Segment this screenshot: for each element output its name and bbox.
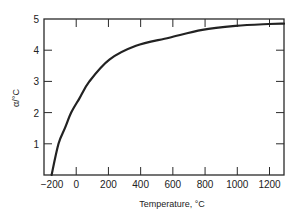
y-tick-label: 2: [33, 108, 39, 119]
series-line: [52, 24, 284, 175]
y-axis-ticks: 12345: [33, 14, 284, 150]
y-tick-label: 5: [33, 14, 39, 25]
x-tick-label: 1000: [226, 179, 249, 190]
x-tick-label: 600: [165, 179, 182, 190]
x-tick-label: 800: [197, 179, 214, 190]
x-axis-label: Temperature, °C: [139, 199, 205, 209]
y-axis-label: α/°C: [11, 89, 21, 107]
data-series: [52, 24, 284, 175]
y-tick-label: 1: [33, 139, 39, 150]
x-tick-label: 200: [100, 179, 117, 190]
x-tick-label: −200: [41, 179, 64, 190]
x-tick-label: 400: [132, 179, 149, 190]
y-tick-label: 4: [33, 45, 39, 56]
line-chart: −200020040060080010001200 12345 Temperat…: [0, 0, 298, 215]
x-tick-label: 1200: [258, 179, 281, 190]
x-tick-label: 0: [73, 179, 79, 190]
y-tick-label: 3: [33, 76, 39, 87]
